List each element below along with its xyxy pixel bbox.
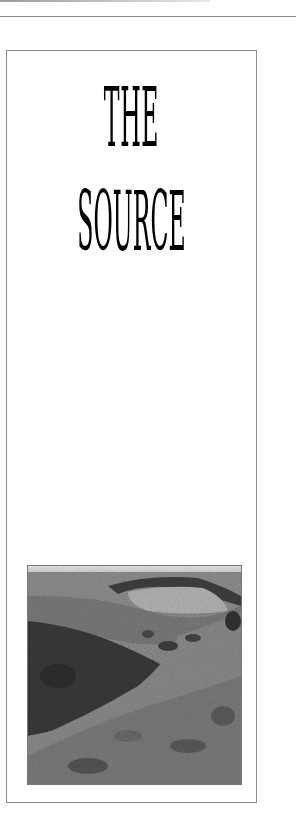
title-line-1: THE <box>54 71 208 166</box>
page-frame: THE SOURCE <box>6 50 257 803</box>
top-edge-line <box>0 0 210 2</box>
header-rule <box>0 16 296 17</box>
moorland-image-icon <box>28 566 241 784</box>
title-line-2: SOURCE <box>54 175 208 270</box>
landscape-photo <box>27 565 242 785</box>
